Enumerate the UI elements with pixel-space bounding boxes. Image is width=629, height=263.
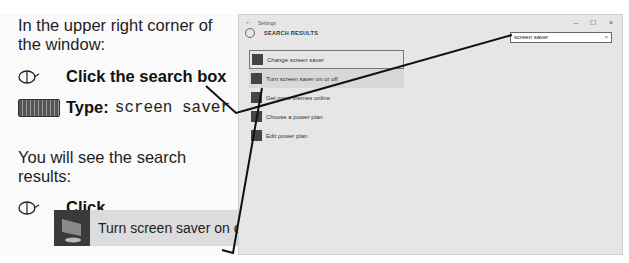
pointer-lines (0, 0, 629, 263)
